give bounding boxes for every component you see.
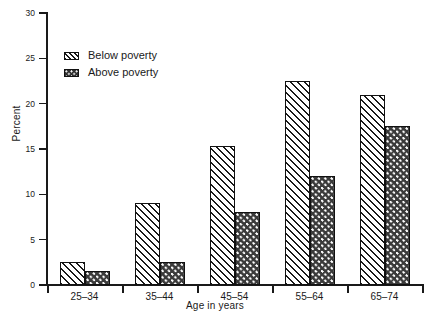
y-axis-tick-label: 15 [26,145,39,154]
bar-below-poverty [210,146,235,285]
x-axis-title: Age in years [0,300,430,311]
y-axis-tick-label: 0 [30,281,39,290]
bar-below-poverty [285,81,310,285]
x-axis-tick [197,286,199,293]
x-axis-category-label: 55–64 [296,291,324,302]
bar-above-poverty [160,262,185,285]
y-axis-tick: 30 [39,12,47,14]
x-axis-category-label: 35–44 [146,291,174,302]
x-axis-tick [122,286,124,293]
y-axis-tick-label: 5 [30,235,39,244]
legend-label-below-poverty: Below poverty [88,50,157,61]
bar-chart: Percent Age in years 051015202530 25–343… [0,0,430,317]
y-axis-tick: 10 [39,194,47,196]
bar-above-poverty [310,176,335,285]
legend-item-above-poverty: Above poverty [64,65,158,80]
bar-below-poverty [60,262,85,285]
x-axis-category-label: 25–34 [71,291,99,302]
legend-label-above-poverty: Above poverty [88,67,158,78]
y-axis-tick: 5 [39,239,47,241]
y-axis-title: Percent [11,106,22,142]
x-axis-category-label: 45–54 [221,291,249,302]
legend-item-below-poverty: Below poverty [64,48,158,63]
y-axis-tick-label: 20 [26,99,39,108]
x-axis-tick [347,286,349,293]
y-axis-tick: 20 [39,103,47,105]
y-axis-tick: 0 [39,284,47,286]
y-axis-tick: 15 [39,148,47,150]
bar-above-poverty [235,212,260,285]
x-axis-tick [272,286,274,293]
bar-below-poverty [360,95,385,285]
bar-below-poverty [135,203,160,285]
y-axis-tick-label: 10 [26,190,39,199]
y-axis-tick-label: 30 [26,9,39,18]
legend-swatch-above-poverty-icon [64,69,79,77]
x-axis-tick [422,286,424,293]
bar-above-poverty [85,271,110,285]
bar-above-poverty [385,126,410,285]
x-axis-category-label: 65–74 [371,291,399,302]
legend-swatch-below-poverty-icon [64,52,79,60]
x-axis-tick [47,286,49,293]
y-axis-tick-label: 25 [26,54,39,63]
chart-legend: Below poverty Above poverty [64,48,158,82]
y-axis-tick: 25 [39,58,47,60]
